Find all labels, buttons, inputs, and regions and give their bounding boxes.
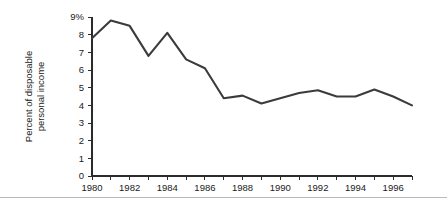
y-tick-label: 8 xyxy=(79,29,84,40)
x-tick-label: 1984 xyxy=(157,182,178,193)
chart-figure: Percent of disposablepersonal income 012… xyxy=(0,0,447,201)
x-tick-label: 1992 xyxy=(307,182,328,193)
x-tick-label: 1994 xyxy=(345,182,366,193)
y-axis-title-line: Percent of disposable xyxy=(23,51,34,142)
x-tick-label: 1996 xyxy=(383,182,404,193)
y-tick-label: 0 xyxy=(79,170,84,181)
x-tick-label: 1988 xyxy=(232,182,253,193)
y-tick-label: 2 xyxy=(79,135,84,146)
x-tick-label: 1982 xyxy=(119,182,140,193)
y-tick-label: 6 xyxy=(79,64,84,75)
y-tick-label: 7 xyxy=(79,47,84,58)
x-tick-label: 1986 xyxy=(194,182,215,193)
y-tick-label: 1 xyxy=(79,153,84,164)
chart-background xyxy=(0,0,447,201)
x-tick-label: 1980 xyxy=(81,182,102,193)
page-divider-rule xyxy=(0,197,447,198)
y-axis-title: Percent of disposablepersonal income xyxy=(23,51,46,142)
x-tick-label: 1990 xyxy=(270,182,291,193)
y-tick-label: 4 xyxy=(79,100,84,111)
y-tick-label: 5 xyxy=(79,82,84,93)
y-tick-label: 9% xyxy=(70,11,84,22)
x-axis-tick-labels: 198019821984198619881990199219941996 xyxy=(81,182,403,193)
y-tick-label: 3 xyxy=(79,117,84,128)
line-chart: Percent of disposablepersonal income 012… xyxy=(0,0,447,201)
y-axis-title-line: personal income xyxy=(35,62,46,132)
